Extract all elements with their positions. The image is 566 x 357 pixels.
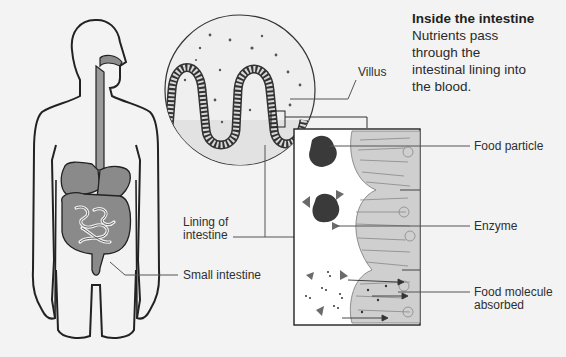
label-enzyme: Enzyme (474, 220, 517, 233)
label-villus: Villus (358, 66, 386, 79)
info-panel: Inside the intestine Nutrients pass thro… (412, 11, 562, 95)
panel-title: Inside the intestine (412, 11, 562, 27)
label-food-molecule-line-2: absorbed (474, 299, 524, 312)
esophagus (96, 55, 122, 170)
small-intestine-leader (110, 262, 178, 275)
panel-description-line-1: Nutrients pass (412, 27, 562, 44)
intestines (62, 193, 131, 275)
panel-description-line-2: through the (412, 44, 562, 61)
panel-description-line-3: intestinal lining into (412, 61, 562, 78)
panel-description-line-4: the blood. (412, 78, 562, 95)
label-lining-line-2: intestine (183, 229, 228, 242)
label-food-particle: Food particle (474, 140, 543, 153)
label-small-intestine: Small intestine (183, 269, 261, 282)
